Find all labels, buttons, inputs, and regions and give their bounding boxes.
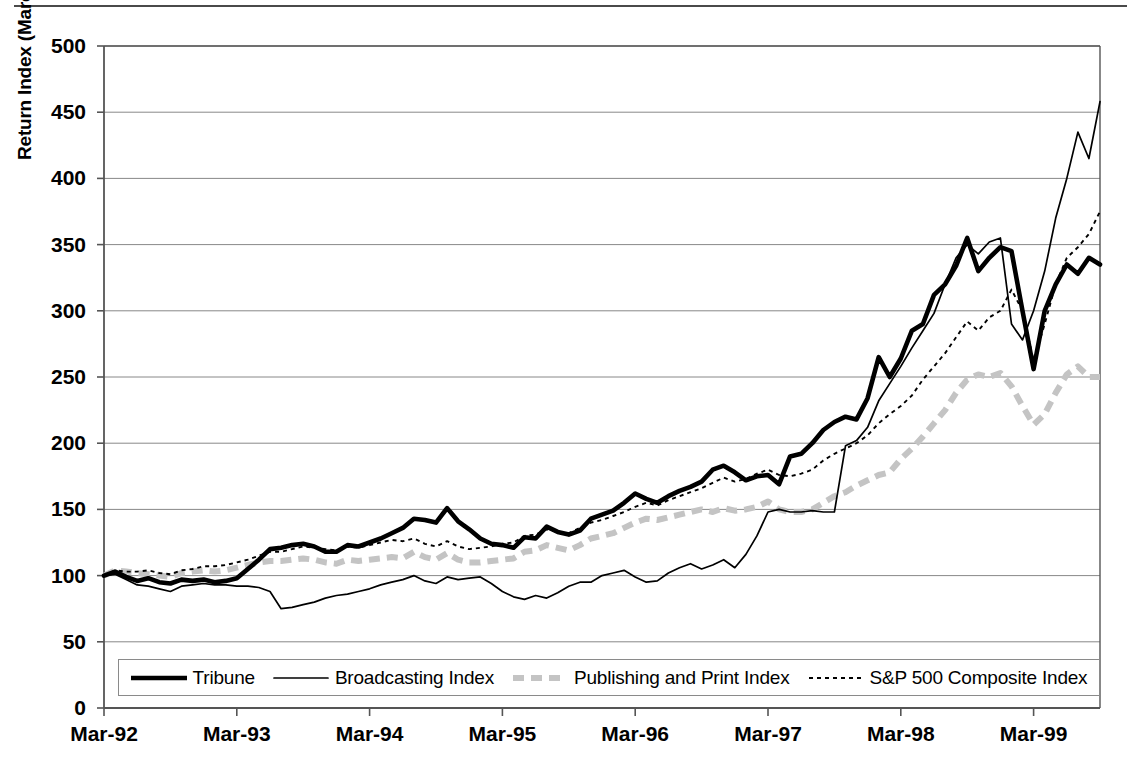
x-tick-label: Mar-92 — [70, 722, 138, 746]
legend-item-label: Broadcasting Index — [335, 667, 494, 689]
series-line-publishing-and-print-index — [104, 366, 1100, 577]
legend-swatch-icon — [131, 671, 187, 685]
x-axis-tick-labels: Mar-92Mar-93Mar-94Mar-95Mar-96Mar-97Mar-… — [0, 722, 1143, 762]
chart-legend: TribuneBroadcasting IndexPublishing and … — [118, 659, 1100, 696]
x-tick-label: Mar-93 — [203, 722, 271, 746]
legend-swatch-icon — [273, 671, 329, 685]
series-line-tribune — [104, 238, 1100, 584]
x-tick-label: Mar-98 — [867, 722, 935, 746]
stock-performance-line-chart: Return Index (March 1992 = 100) 05010015… — [0, 0, 1143, 783]
x-tick-label: Mar-96 — [601, 722, 669, 746]
legend-item-broadcasting-index[interactable]: Broadcasting Index — [264, 667, 503, 689]
series-line-s-p-500-composite-index — [104, 212, 1100, 576]
x-tick-label: Mar-94 — [336, 722, 404, 746]
series-line-broadcasting-index — [104, 102, 1100, 609]
legend-item-tribune[interactable]: Tribune — [122, 667, 264, 689]
x-tick-label: Mar-95 — [469, 722, 537, 746]
x-tick-label: Mar-97 — [734, 722, 802, 746]
legend-swatch-icon — [512, 671, 568, 685]
legend-item-label: Publishing and Print Index — [574, 667, 790, 689]
legend-item-label: S&P 500 Composite Index — [870, 667, 1088, 689]
legend-item-s-p-500-composite-index[interactable]: S&P 500 Composite Index — [799, 667, 1097, 689]
legend-item-publishing-and-print-index[interactable]: Publishing and Print Index — [503, 667, 799, 689]
x-tick-label: Mar-99 — [1000, 722, 1068, 746]
legend-item-label: Tribune — [193, 667, 255, 689]
legend-swatch-icon — [808, 671, 864, 685]
